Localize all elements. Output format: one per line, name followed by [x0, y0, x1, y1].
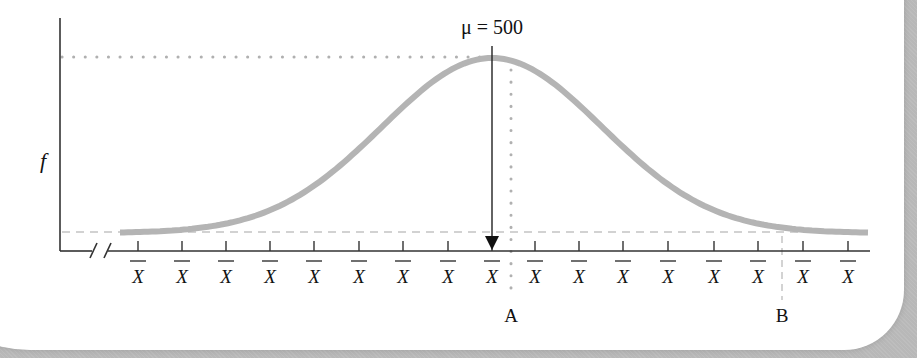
tick-label: X	[661, 266, 675, 287]
mean-label: μ = 500	[461, 16, 523, 39]
mean-arrow-head-icon	[485, 236, 499, 250]
tick-label: X	[616, 266, 630, 287]
normal-curve	[120, 58, 868, 233]
tick-label: X	[396, 266, 410, 287]
tick-label: X	[175, 266, 189, 287]
tick-label: X	[307, 266, 321, 287]
tick-label: X	[219, 266, 233, 287]
normal-distribution-diagram: XXXXXXXXXXXXXXXXX μ = 500 f A B	[0, 0, 917, 358]
tick-label: X	[352, 266, 366, 287]
tick-label: X	[751, 266, 765, 287]
tick-label: X	[572, 266, 586, 287]
tick-label: X	[796, 266, 810, 287]
tick-label: X	[441, 266, 455, 287]
marker-b-label: B	[776, 305, 789, 326]
tick-label: X	[528, 266, 542, 287]
y-axis-label: f	[40, 148, 49, 173]
tick-label: X	[841, 266, 855, 287]
tick-label: X	[485, 266, 499, 287]
marker-a-label: A	[504, 305, 518, 326]
tick-label: X	[263, 266, 277, 287]
tick-label: X	[707, 266, 721, 287]
tick-label: X	[131, 266, 145, 287]
